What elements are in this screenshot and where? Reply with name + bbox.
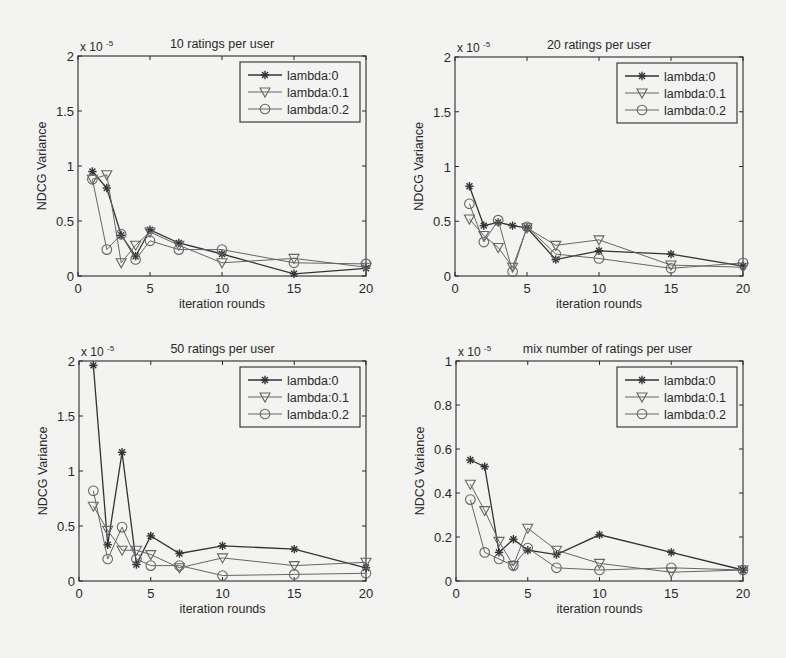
legend: lambda:0lambda:0.1lambda:0.2 xyxy=(240,367,360,427)
y-tick-label: 0.5 xyxy=(57,519,75,534)
y-axis-label: NDCG Variance xyxy=(36,427,50,516)
series-lambda-0-2 xyxy=(466,495,748,575)
chart-panel-4: 0510152000.20.40.60.81x 10 -5mix number … xyxy=(413,342,750,616)
chart-title: 20 ratings per user xyxy=(547,38,651,52)
figure: 0510152000.511.52x 10 -510 ratings per u… xyxy=(0,0,786,658)
x-axis-label: iteration rounds xyxy=(556,602,642,616)
y-tick-label: 1 xyxy=(68,464,75,479)
y-tick-label: 0 xyxy=(67,269,74,284)
asterisk-marker xyxy=(595,531,603,539)
asterisk-marker xyxy=(508,221,516,229)
x-tick-label: 10 xyxy=(215,281,229,296)
y-tick-label: 2 xyxy=(67,49,74,64)
series-lambda-0-1 xyxy=(87,171,371,272)
circle-marker xyxy=(89,486,99,496)
legend-label: lambda:0.1 xyxy=(664,87,726,101)
asterisk-marker xyxy=(175,549,183,557)
asterisk-marker xyxy=(481,462,489,470)
series-lambda-0 xyxy=(465,182,747,270)
legend-label: lambda:0.2 xyxy=(664,408,726,422)
series-lambda-0-1 xyxy=(88,502,371,573)
y-exponent-label: x 10 -5 xyxy=(81,344,115,359)
x-axis-label: iteration rounds xyxy=(556,297,642,311)
y-tick-label: 1 xyxy=(445,354,452,369)
y-tick-label: 0.5 xyxy=(56,214,74,229)
x-tick-label: 15 xyxy=(664,586,678,601)
asterisk-marker xyxy=(147,532,155,540)
x-tick-label: 15 xyxy=(287,281,301,296)
chart-panel-2: 0510152000.511.52x 10 -520 ratings per u… xyxy=(412,38,750,311)
y-axis-label: NDCG Variance xyxy=(412,122,426,211)
x-tick-label: 0 xyxy=(74,281,81,296)
series-lambda-0 xyxy=(88,167,370,278)
chart-panel-3: 0510152000.511.52x 10 -550 ratings per u… xyxy=(36,342,373,616)
x-tick-label: 10 xyxy=(592,281,606,296)
legend-label: lambda:0.1 xyxy=(287,391,349,405)
y-tick-label: 0 xyxy=(445,574,452,589)
legend-label: lambda:0 xyxy=(287,69,338,83)
y-exponent-label: x 10 -5 xyxy=(457,40,491,55)
y-exponent-label: x 10 -5 xyxy=(458,344,492,359)
asterisk-marker xyxy=(667,548,675,556)
x-tick-label: 10 xyxy=(592,586,606,601)
asterisk-marker xyxy=(290,270,298,278)
asterisk-marker xyxy=(466,456,474,464)
y-tick-label: 2 xyxy=(68,354,75,369)
x-tick-label: 0 xyxy=(451,281,458,296)
x-tick-label: 5 xyxy=(147,586,154,601)
legend-label: lambda:0 xyxy=(664,374,715,388)
y-tick-label: 0.4 xyxy=(434,486,452,501)
y-exponent-label: x 10 -5 xyxy=(80,39,114,54)
series-lambda-0-2 xyxy=(88,174,371,268)
asterisk-marker xyxy=(667,250,675,258)
chart-title: 10 ratings per user xyxy=(170,37,274,51)
legend: lambda:0lambda:0.1lambda:0.2 xyxy=(617,63,737,123)
y-tick-label: 1.5 xyxy=(433,105,451,120)
asterisk-marker xyxy=(290,545,298,553)
x-tick-label: 20 xyxy=(359,281,373,296)
asterisk-marker xyxy=(261,376,269,384)
x-tick-label: 5 xyxy=(146,281,153,296)
asterisk-marker xyxy=(638,376,646,384)
asterisk-marker xyxy=(218,542,226,550)
x-tick-label: 0 xyxy=(452,586,459,601)
asterisk-marker xyxy=(118,448,126,456)
y-tick-label: 0.5 xyxy=(433,214,451,229)
legend-label: lambda:0.1 xyxy=(287,86,349,100)
asterisk-marker xyxy=(261,71,269,79)
figure-canvas: 0510152000.511.52x 10 -510 ratings per u… xyxy=(0,0,786,658)
y-tick-label: 0 xyxy=(444,269,451,284)
y-tick-label: 0.2 xyxy=(434,530,452,545)
legend-label: lambda:0.2 xyxy=(664,104,726,118)
asterisk-marker xyxy=(638,72,646,80)
legend: lambda:0lambda:0.1lambda:0.2 xyxy=(617,367,737,427)
y-tick-label: 1.5 xyxy=(56,104,74,119)
asterisk-marker xyxy=(465,182,473,190)
x-tick-label: 20 xyxy=(736,586,750,601)
x-axis-label: iteration rounds xyxy=(179,297,265,311)
legend-label: lambda:0.2 xyxy=(287,103,349,117)
asterisk-marker xyxy=(552,255,560,263)
y-tick-label: 0 xyxy=(68,574,75,589)
y-tick-label: 0.6 xyxy=(434,442,452,457)
legend: lambda:0lambda:0.1lambda:0.2 xyxy=(240,62,360,122)
series-lambda-0-1 xyxy=(464,215,748,272)
asterisk-marker xyxy=(480,221,488,229)
asterisk-marker xyxy=(89,361,97,369)
asterisk-marker xyxy=(132,560,140,568)
x-tick-label: 20 xyxy=(359,586,373,601)
series-lambda-0-2 xyxy=(89,486,371,580)
y-axis-label: NDCG Variance xyxy=(35,122,49,211)
chart-title: mix number of ratings per user xyxy=(523,342,693,356)
y-tick-label: 0.8 xyxy=(434,398,452,413)
x-tick-label: 15 xyxy=(287,586,301,601)
x-tick-label: 5 xyxy=(524,586,531,601)
series-lambda-0-2 xyxy=(465,199,748,276)
x-tick-label: 5 xyxy=(523,281,530,296)
legend-label: lambda:0.1 xyxy=(664,391,726,405)
y-tick-label: 1.5 xyxy=(57,409,75,424)
x-tick-label: 15 xyxy=(664,281,678,296)
legend-label: lambda:0 xyxy=(664,70,715,84)
y-tick-label: 2 xyxy=(444,50,451,65)
x-tick-label: 10 xyxy=(215,586,229,601)
